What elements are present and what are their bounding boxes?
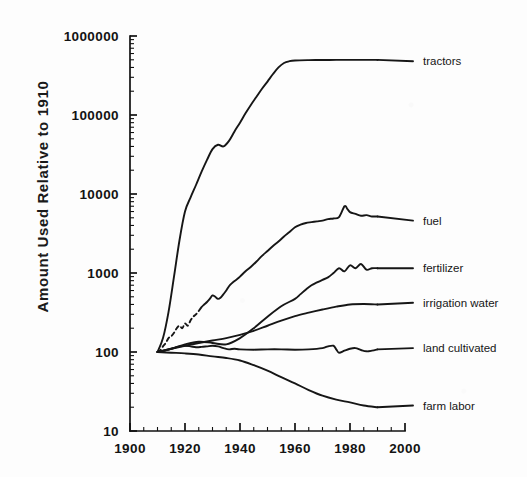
series-leader-tractors xyxy=(378,60,414,61)
series-curve-irrigation-water xyxy=(158,304,378,352)
y-tick-label: 1000 xyxy=(87,266,119,281)
y-tick-label: 10 xyxy=(103,424,119,439)
chart-svg: 1010010001000010000010000001900192019401… xyxy=(0,0,527,477)
chart-series-leader-lines xyxy=(378,60,414,407)
chart-series-labels: tractorsfuelfertilizerirrigation waterla… xyxy=(423,55,499,411)
series-label-fuel: fuel xyxy=(423,215,442,227)
series-label-fertilizer: fertilizer xyxy=(423,262,463,274)
series-label-irrigation-water: irrigation water xyxy=(423,297,499,309)
chart-series-curves xyxy=(158,60,378,407)
series-curve-fertilizer xyxy=(158,264,378,352)
y-tick-label: 1000000 xyxy=(64,29,119,44)
chart-tick-labels: 1010010001000010000010000001900192019401… xyxy=(64,29,421,456)
chart-figure: Amount Used Relative to 1910 10100100010… xyxy=(0,0,527,477)
x-tick-label: 1940 xyxy=(224,441,256,456)
x-tick-label: 1960 xyxy=(279,441,311,456)
series-curve-land-cultivated xyxy=(158,346,378,353)
series-leader-land-cultivated xyxy=(378,348,414,349)
y-tick-label: 10000 xyxy=(79,187,119,202)
series-label-farm-labor: farm labor xyxy=(423,400,475,412)
series-leader-fuel xyxy=(378,216,414,220)
x-tick-label: 2000 xyxy=(389,441,421,456)
series-leader-farm-labor xyxy=(378,406,414,408)
series-curve-farm-labor xyxy=(158,352,378,407)
series-curve-fuel-solid xyxy=(199,206,378,311)
y-tick-label: 100 xyxy=(95,345,119,360)
series-leader-irrigation-water xyxy=(378,303,414,305)
x-tick-label: 1980 xyxy=(334,441,366,456)
y-tick-label: 100000 xyxy=(72,108,119,123)
chart-axes xyxy=(130,36,405,431)
x-tick-label: 1920 xyxy=(169,441,201,456)
series-label-land-cultivated: land cultivated xyxy=(423,342,497,354)
x-tick-label: 1900 xyxy=(114,441,146,456)
series-label-tractors: tractors xyxy=(423,55,462,67)
